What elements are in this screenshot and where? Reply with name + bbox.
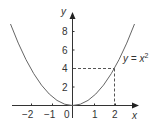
function-label: y = x2 [123, 51, 148, 64]
function-label-text: y = x [123, 53, 144, 64]
y-tick-label: 6 [62, 46, 68, 56]
function-label-exponent: 2 [144, 52, 148, 59]
y-tick-label: 4 [62, 64, 68, 74]
x-axis-arrow-icon [132, 103, 139, 109]
y-axis-label: y [61, 7, 66, 17]
x-tick-label: 0 [64, 110, 70, 120]
x-axis-label: x [132, 111, 137, 121]
y-axis-arrow-icon [70, 12, 76, 19]
y-tick-label: 8 [62, 27, 68, 37]
y-tick-label: 2 [62, 83, 68, 93]
x-tick-label: −2 [22, 110, 33, 120]
x-tick-label: 2 [112, 110, 118, 120]
x-tick-label: −1 [44, 110, 55, 120]
x-tick-label: 1 [92, 110, 98, 120]
